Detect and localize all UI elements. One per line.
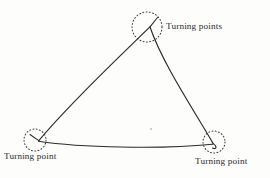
scan-speck xyxy=(150,128,152,130)
curve-left-edge xyxy=(39,27,150,141)
dotted-circle-bottom-right-icon xyxy=(203,131,225,153)
cusp-tail-apex xyxy=(150,18,157,27)
dotted-circle-bottom-left-icon xyxy=(24,129,46,151)
label-turning-point-bottom-left: Turning point xyxy=(4,151,56,161)
curve-right-edge xyxy=(150,27,213,144)
label-turning-points-top: Turning points xyxy=(166,21,222,31)
label-turning-point-bottom-right: Turning point xyxy=(195,156,247,166)
curve-bottom-edge xyxy=(39,141,213,147)
figure-container: Turning points Turning point Turning poi… xyxy=(0,0,270,178)
dotted-circle-top-icon xyxy=(132,12,162,42)
cusp-tail-bottom-left xyxy=(30,135,39,141)
